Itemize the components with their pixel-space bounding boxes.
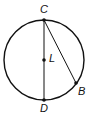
label-C: C bbox=[40, 3, 48, 15]
label-B: B bbox=[78, 85, 85, 97]
point-C bbox=[42, 18, 46, 22]
point-L bbox=[42, 58, 46, 62]
label-L: L bbox=[49, 52, 55, 64]
circle-diagram: C L B D bbox=[0, 0, 90, 113]
label-D: D bbox=[40, 102, 48, 113]
